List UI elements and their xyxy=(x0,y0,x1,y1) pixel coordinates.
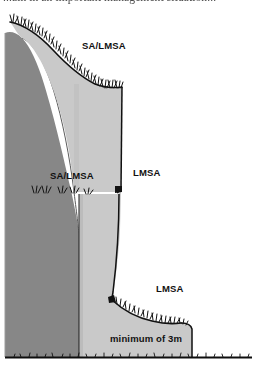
slope-cross-section-figure xyxy=(0,0,256,375)
label-minimum-depth: minimum of 3m xyxy=(110,334,182,344)
label-lmsa-middle: LMSA xyxy=(133,168,161,178)
label-sa-lmsa-middle: SA/LMSA xyxy=(50,171,94,181)
label-lmsa-lower: LMSA xyxy=(156,284,184,294)
diagram-page: ...ain in an important management situat… xyxy=(0,0,256,375)
label-sa-lmsa-upper: SA/LMSA xyxy=(82,41,126,51)
